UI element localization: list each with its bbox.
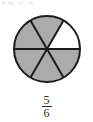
fraction: 5 6	[42, 95, 52, 119]
pie-chart	[0, 0, 93, 95]
fraction-label: 5 6	[0, 95, 93, 120]
fraction-denominator: 6	[42, 108, 52, 119]
fraction-pie-figure: 5 6	[0, 0, 93, 122]
fraction-numerator: 5	[42, 95, 52, 106]
